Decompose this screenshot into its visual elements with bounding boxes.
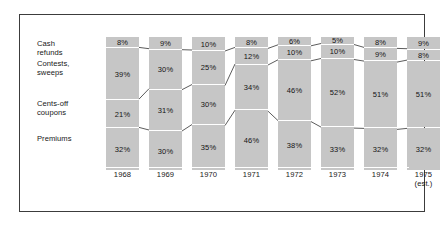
connector-cash-1972-1973 (311, 44, 321, 46)
bar-column-1975: 9% 8% 51% 32% (407, 37, 440, 167)
bar-column-1969: 9% 30% 31% 30% (149, 37, 182, 167)
connector-coupons-1972-1973 (311, 122, 321, 128)
connector-coupons-1969-1970 (182, 125, 192, 132)
segment-cents-off-coupons-1973: 52% (321, 59, 354, 127)
segment-cents-off-coupons-1975: 51% (407, 61, 440, 127)
row-label-cash-refunds: Cash refunds (37, 39, 103, 58)
segment-cash-refunds-1970: 10% (192, 37, 225, 50)
year-label-1974: 1974 (364, 170, 397, 179)
connector-contests-1968-1969 (139, 89, 149, 99)
connector-coupons-1970-1971 (225, 110, 235, 125)
segment-cash-refunds-1969: 9% (149, 37, 182, 49)
segment-premiums-1972: 38% (278, 121, 311, 170)
connector-cash-1971-1972 (268, 45, 278, 49)
connector-coupons-1971-1972 (268, 111, 278, 120)
bar-column-1973: 5% 10% 52% 33% (321, 37, 354, 167)
segment-contests-sweeps-1971: 12% (235, 48, 268, 64)
segment-premiums-1969: 30% (149, 131, 182, 170)
segment-contests-sweeps-1975: 8% (407, 50, 440, 60)
segment-cash-refunds-1968: 8% (106, 37, 139, 47)
year-label-1973: 1973 (321, 170, 354, 179)
year-label-1969: 1969 (149, 170, 182, 179)
segment-cents-off-coupons-1974: 51% (364, 61, 397, 127)
segment-contests-sweeps-1974: 9% (364, 48, 397, 60)
connector-contests-1970-1971 (225, 64, 235, 86)
row-label-premiums: Premiums (37, 134, 103, 143)
segment-premiums-1975: 32% (407, 128, 440, 170)
segment-cents-off-coupons-1969: 31% (149, 90, 182, 130)
connector-contests-1974-1975 (397, 60, 407, 62)
connector-contests-1971-1972 (268, 60, 278, 65)
segment-contests-sweeps-1973: 10% (321, 45, 354, 58)
connector-cash-1970-1971 (225, 47, 235, 51)
year-label-1971: 1971 (235, 170, 268, 179)
segment-cents-off-coupons-1971: 34% (235, 65, 268, 109)
bar-column-1971: 8% 12% 34% 46% (235, 37, 268, 167)
year-label-1975: 1975 (est.) (407, 170, 440, 189)
year-label-1968: 1968 (106, 170, 139, 179)
row-label-contests-sweeps: Contests, sweeps (37, 59, 103, 78)
bar-column-1968: 8% 39% 21% 32% (106, 37, 139, 167)
segment-premiums-1968: 32% (106, 128, 139, 170)
segment-cash-refunds-1973: 5% (321, 37, 354, 44)
connector-coupons-1968-1969 (139, 127, 149, 130)
connector-contests-1972-1973 (311, 59, 321, 61)
row-label-cents-off-coupons: Cents-off coupons (37, 99, 103, 118)
segment-cents-off-coupons-1972: 46% (278, 60, 311, 120)
year-label-1972: 1972 (278, 170, 311, 179)
connector-coupons-1974-1975 (397, 128, 407, 129)
connector-cash-1968-1969 (139, 47, 149, 48)
segment-contests-sweeps-1972: 10% (278, 46, 311, 59)
segment-premiums-1974: 32% (364, 128, 397, 170)
axis-baseline (106, 167, 409, 168)
stacked-bar-chart: Cash refunds Contests, sweeps Cents-off … (20, 15, 424, 211)
segment-cents-off-coupons-1970: 30% (192, 85, 225, 124)
connector-cash-1973-1974 (354, 45, 364, 48)
bar-column-1970: 10% 25% 30% 35% (192, 37, 225, 167)
segment-cash-refunds-1975: 9% (407, 37, 440, 49)
segment-cash-refunds-1971: 8% (235, 37, 268, 47)
segment-contests-sweeps-1968: 39% (106, 48, 139, 99)
segment-premiums-1970: 35% (192, 125, 225, 171)
year-label-1970: 1970 (192, 170, 225, 179)
segment-cash-refunds-1972: 6% (278, 37, 311, 45)
segment-cents-off-coupons-1968: 21% (106, 100, 139, 127)
segment-premiums-1973: 33% (321, 127, 354, 170)
segment-premiums-1971: 46% (235, 110, 268, 170)
connector-contests-1973-1974 (354, 60, 364, 62)
segment-cash-refunds-1974: 8% (364, 37, 397, 47)
segment-contests-sweeps-1970: 25% (192, 51, 225, 84)
segment-contests-sweeps-1969: 30% (149, 50, 182, 89)
bar-column-1974: 8% 9% 51% 32% (364, 37, 397, 167)
bar-column-1972: 6% 10% 46% 38% (278, 37, 311, 167)
chart-frame: Cash refunds Contests, sweeps Cents-off … (19, 14, 425, 212)
connector-contests-1969-1970 (182, 85, 192, 90)
